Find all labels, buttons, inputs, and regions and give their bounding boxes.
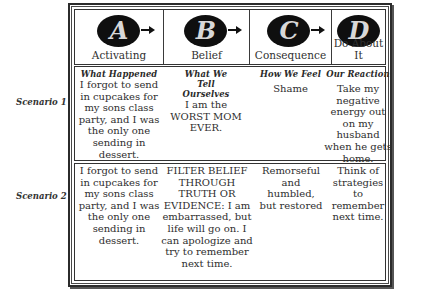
scenario-1-a-text: I forgot to send in cupcakes for my sons… [75,79,163,160]
header-cell-activating: A Activating [75,10,163,64]
scenario-2-b-text: FILTER BELIEF THROUGH TRUTH OR EVIDENCE:… [159,165,255,269]
header-label-do-about-it: Do About It [328,37,389,61]
scenario-1-our-reaction: Our Reaction Take my negative energy out… [323,69,393,164]
scenario-2-c-text: Remorseful and humbled, but restored [258,165,324,211]
scenario-2-what-happened: I forgot to send in cupcakes for my sons… [75,165,163,246]
header-label-belief: Belief [164,49,249,61]
scenario-1-how-we-feel: How We Feel Shame [250,69,331,95]
arrow-right-icon [141,29,150,31]
scenario-1-what-we-tell-ourselves: What We Tell Ourselves I am the WORST MO… [163,69,249,134]
scenario-2-how-we-feel: Remorseful and humbled, but restored [258,165,324,211]
letter-c-badge-icon: C [267,15,310,47]
scenario-1-c-text: Shame [250,83,331,95]
header-cell-do-about-it: D Do About It [332,10,385,64]
letter-b-badge-icon: B [184,15,227,47]
scenario-1-row: What Happened I forgot to send in cupcak… [74,66,386,161]
scenario-1-d-text: Take my negative energy out on my husban… [323,83,393,164]
scenario-1-label: Scenario 1 [16,97,67,107]
letter-a-badge-icon: A [97,15,140,47]
scenario-2-our-reaction: Think of strategies to remember next tim… [327,165,389,223]
scenario-2-what-we-tell-ourselves: FILTER BELIEF THROUGH TRUTH OR EVIDENCE:… [159,165,255,269]
column-heading-what-happened: What Happened [75,69,163,79]
scenario-2-row: I forgot to send in cupcakes for my sons… [74,163,386,281]
column-heading-how-we-feel: How We Feel [250,69,331,79]
header-label-activating: Activating [75,49,163,61]
scenario-2-a-text: I forgot to send in cupcakes for my sons… [75,165,163,246]
column-heading-our-reaction: Our Reaction [323,69,393,79]
header-label-consequence: Consequence [250,49,331,61]
scenario-1-b-text: I am the WORST MOM EVER. [163,99,249,134]
scenario-2-d-text: Think of strategies to remember next tim… [327,165,389,223]
scenario-1-what-happened: What Happened I forgot to send in cupcak… [75,69,163,160]
header-cell-consequence: C Consequence [250,10,331,64]
arrow-right-icon [311,29,320,31]
column-heading-what-we-tell-ourselves: What We Tell Ourselves [163,69,249,99]
abcd-header-row: A Activating B Belief C Consequence D Do… [74,9,386,65]
header-cell-belief: B Belief [164,10,249,64]
arrow-right-icon [228,29,237,31]
scenario-2-label: Scenario 2 [16,191,67,201]
